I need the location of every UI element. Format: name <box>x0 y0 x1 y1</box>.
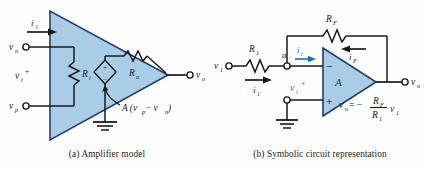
node-a-dot <box>284 63 290 69</box>
label-ri: R <box>81 69 88 79</box>
equation-vo-subscript: o <box>345 105 348 112</box>
amplifier-model-diagram: + − i i v n <box>0 0 214 150</box>
label-vo-b: v <box>411 77 416 87</box>
arrow-i1-head <box>263 76 272 83</box>
label-vi-plus-b: + <box>301 79 305 88</box>
label-ii-b: i <box>297 45 300 55</box>
panel-amplifier-model: + − i i v n <box>0 0 214 171</box>
caption-panel-b: (b) Symbolic circuit representation <box>213 149 427 159</box>
label-vi-subscript-a: i <box>21 76 23 83</box>
label-noninverting-terminal: + <box>326 95 332 107</box>
terminal-vn <box>23 44 29 50</box>
label-inverting-terminal: − <box>326 60 332 72</box>
label-vn: v <box>9 42 14 52</box>
terminal-v1 <box>226 63 232 69</box>
label-ii: i <box>31 18 34 28</box>
equation-numerator-r: R <box>372 96 379 106</box>
label-i1-subscript: 1 <box>257 91 260 97</box>
label-if-subscript: F <box>352 58 357 64</box>
label-vn-subscript: n <box>15 47 18 54</box>
label-if: i <box>349 52 352 62</box>
label-ii-subscript-b: i <box>301 51 303 57</box>
label-r1-subscript: 1 <box>256 49 259 56</box>
label-dependent-source-minus: − v <box>145 103 159 113</box>
terminal-vo-b <box>402 79 408 85</box>
terminal-noninverting <box>284 97 290 103</box>
label-dependent-source-expr: A (v <box>121 103 138 114</box>
gain-equation: v o = − R F R 1 v 1 <box>339 96 399 122</box>
label-r1: R <box>248 44 255 54</box>
equation-tail-subscript: 1 <box>396 109 399 116</box>
label-ro: R <box>128 68 135 78</box>
equation-tail-v: v <box>390 104 395 114</box>
equation-equals-minus: = − <box>349 100 362 110</box>
label-vi-subscript-b: i <box>296 88 298 95</box>
figure-container: + − i i v n <box>0 0 427 171</box>
label-i1: i <box>253 85 256 95</box>
label-v1: v <box>214 61 219 71</box>
label-vp-subscript: p <box>14 106 18 113</box>
label-rf-subscript: F <box>332 19 337 26</box>
equation-denominator-r: R <box>371 110 378 120</box>
resistor-r1-symbol <box>246 60 269 72</box>
symbolic-circuit-diagram: v 1 R 1 a i i i 1 v i + R F i F A <box>213 0 427 150</box>
label-rf: R <box>325 14 332 24</box>
label-vo-subscript-a: o <box>202 75 205 82</box>
equation-denominator-subscript: 1 <box>379 115 382 122</box>
label-vi-a: v <box>15 71 20 81</box>
label-opamp-gain: A <box>334 76 342 88</box>
label-ro-subscript: o <box>136 73 139 80</box>
arrow-ii-head-b <box>308 56 316 62</box>
label-vi-b: v <box>290 83 295 93</box>
label-vp: v <box>9 101 14 111</box>
panel-symbolic-circuit: v 1 R 1 a i i i 1 v i + R F i F A <box>213 0 427 171</box>
label-vi-plus-a: + <box>25 67 29 76</box>
resistor-rf-symbol <box>323 30 346 42</box>
terminal-vo-a <box>187 72 193 78</box>
label-ii-subscript: i <box>36 24 38 30</box>
label-node-a: a <box>282 50 287 60</box>
label-vo-a: v <box>196 70 201 80</box>
terminal-vp <box>23 103 29 109</box>
source-minus-sign: − <box>103 76 107 84</box>
label-ri-subscript: i <box>89 74 91 81</box>
label-v1-subscript: 1 <box>220 66 223 73</box>
label-dependent-source-close: ) <box>167 103 171 114</box>
caption-panel-a: (a) Amplifier model <box>0 149 214 159</box>
label-vo-subscript-b: o <box>417 82 420 89</box>
